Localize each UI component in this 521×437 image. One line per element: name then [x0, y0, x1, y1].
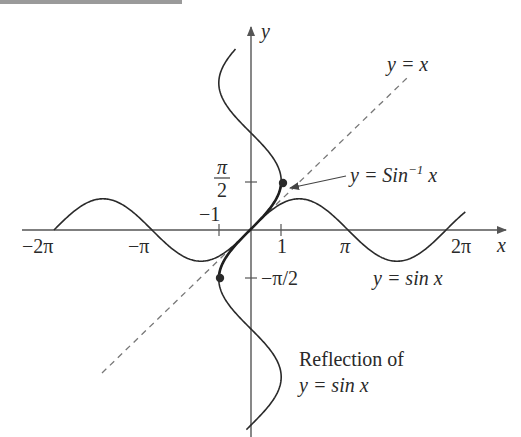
x-tick-label-pi: π: [340, 235, 351, 257]
function-plot: y x −2π −π 1 π 2π −1 π 2 −π/2 y = x y = …: [0, 0, 521, 437]
x-tick-label-minus-1: −1: [199, 203, 220, 225]
reflection-label-line1: Reflection of: [299, 348, 404, 370]
arcsin-pointer-arrow: [290, 176, 346, 188]
x-tick-label-2pi: 2π: [451, 235, 471, 257]
arcsin-endpoint-bottom: [216, 274, 224, 282]
arcsin-label: y = Sin−1 x: [348, 162, 437, 187]
y-tick-label-minus-pi-over-2: −π/2: [261, 267, 298, 289]
x-axis-label: x: [496, 234, 506, 256]
x-tick-label-minus-2pi: −2π: [22, 235, 53, 257]
y-tick-label-pi-numerator: π: [217, 156, 228, 178]
reflection-label-line2: y = sin x: [297, 374, 369, 397]
y-axis-label: y: [259, 20, 270, 43]
identity-line-label: y = x: [385, 53, 428, 76]
y-tick-label-pi-denominator: 2: [217, 179, 227, 201]
arcsin-endpoint-top: [279, 179, 287, 187]
x-tick-label-1: 1: [277, 235, 287, 257]
sine-label: y = sin x: [371, 267, 443, 290]
x-tick-label-minus-pi: −π: [128, 235, 149, 257]
reflection-curve: [219, 49, 281, 430]
